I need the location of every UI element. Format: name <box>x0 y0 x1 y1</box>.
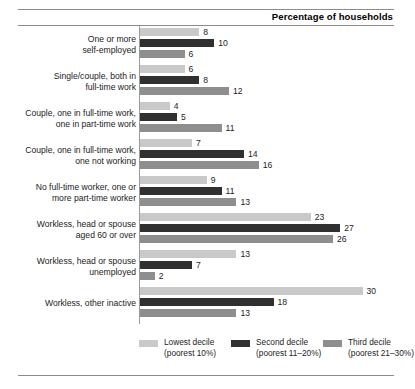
legend-label: Lowest decile(poorest 10%) <box>164 337 216 359</box>
bar[interactable] <box>140 272 155 280</box>
category-label: Workless, other inactive <box>4 298 136 309</box>
bar[interactable] <box>140 213 311 221</box>
bar-value-label: 8 <box>203 75 208 85</box>
bar[interactable] <box>140 161 259 169</box>
category-label: Workless, head or spouse aged 60 or over <box>4 219 136 240</box>
bar[interactable] <box>140 28 199 36</box>
bar[interactable] <box>140 287 363 295</box>
bar-value-label: 23 <box>315 212 325 222</box>
bar-value-label: 4 <box>174 101 179 111</box>
category-label: Workless, head or spouse unemployed <box>4 256 136 277</box>
category-label: Couple, one in full-time work, one in pa… <box>4 108 136 129</box>
bar[interactable] <box>140 235 333 243</box>
chart-legend: Lowest decile(poorest 10%)Second decile(… <box>139 337 401 367</box>
legend-swatch <box>139 340 158 347</box>
bar-value-label: 6 <box>189 64 194 74</box>
bar[interactable] <box>140 65 185 73</box>
bar[interactable] <box>140 124 222 132</box>
bar-value-label: 13 <box>240 249 250 259</box>
bar-value-label: 11 <box>226 186 235 196</box>
bar[interactable] <box>140 50 185 58</box>
bar[interactable] <box>140 176 207 184</box>
legend-swatch <box>323 340 342 347</box>
legend-sublabel: (poorest 21–30%) <box>348 348 414 359</box>
bar-value-label: 9 <box>211 175 216 185</box>
bar-value-label: 6 <box>189 49 194 59</box>
category-label: Couple, one in full-time work, one not w… <box>4 145 136 166</box>
category-label: No full-time worker, one or more part-ti… <box>4 182 136 203</box>
category-label: One or more self-employed <box>4 34 136 55</box>
bar[interactable] <box>140 250 236 258</box>
bar[interactable] <box>140 309 236 317</box>
category-label: Single/couple, both in full-time work <box>4 71 136 92</box>
bar[interactable] <box>140 113 177 121</box>
bar[interactable] <box>140 150 244 158</box>
bar[interactable] <box>140 198 236 206</box>
legend-sublabel: (poorest 11–20%) <box>256 348 321 359</box>
bar[interactable] <box>140 261 192 269</box>
footer-rule <box>18 375 394 376</box>
bar[interactable] <box>140 298 274 306</box>
bar-value-label: 13 <box>240 197 250 207</box>
legend-label: Third decile(poorest 21–30%) <box>348 337 414 359</box>
bar[interactable] <box>140 139 192 147</box>
bar[interactable] <box>140 87 229 95</box>
legend-swatch <box>231 340 250 347</box>
bar-value-label: 27 <box>344 223 354 233</box>
bar-value-label: 10 <box>218 38 228 48</box>
bar-value-label: 13 <box>240 308 250 318</box>
bar-value-label: 7 <box>196 138 201 148</box>
bar[interactable] <box>140 187 222 195</box>
legend-sublabel: (poorest 10%) <box>164 348 216 359</box>
bar-value-label: 8 <box>203 27 208 37</box>
legend-label: Second decile(poorest 11–20%) <box>256 337 321 359</box>
bar[interactable] <box>140 39 214 47</box>
plot-area: One or more self-employed8106Single/coup… <box>0 26 411 326</box>
bar-value-label: 7 <box>196 260 201 270</box>
bar[interactable] <box>140 76 199 84</box>
page-title: Percentage of households <box>272 11 393 22</box>
bar-value-label: 14 <box>248 149 258 159</box>
bar-value-label: 16 <box>263 160 273 170</box>
bar-value-label: 11 <box>226 123 235 133</box>
bar[interactable] <box>140 224 340 232</box>
bar-value-label: 5 <box>181 112 186 122</box>
bar-value-label: 30 <box>367 286 377 296</box>
header-rule-top <box>18 9 394 10</box>
bar-value-label: 26 <box>337 234 347 244</box>
bar-value-label: 2 <box>159 271 164 281</box>
bar-value-label: 12 <box>233 86 243 96</box>
bar[interactable] <box>140 102 170 110</box>
bar-value-label: 18 <box>278 297 288 307</box>
